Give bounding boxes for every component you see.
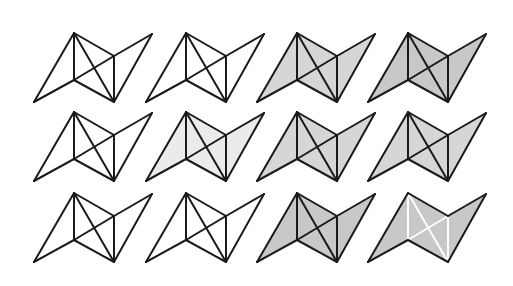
folded-figure-r2-c4 — [368, 112, 486, 181]
folded-figure-r3-c3 — [257, 193, 375, 262]
folded-figure-r3-c1 — [34, 193, 152, 262]
folded-figure-r2-c2 — [146, 112, 264, 181]
folded-figure-r3-c4 — [368, 193, 486, 262]
folded-figure-r2-c1 — [34, 112, 152, 181]
figure-grid — [0, 0, 513, 286]
folded-figure-r2-c3 — [257, 112, 375, 181]
folded-figure-r1-c4 — [368, 33, 486, 102]
folded-figure-r1-c1 — [34, 33, 152, 102]
folded-figure-r1-c3 — [257, 33, 375, 102]
folded-figure-r1-c2 — [146, 33, 264, 102]
folded-figure-r3-c2 — [146, 193, 264, 262]
